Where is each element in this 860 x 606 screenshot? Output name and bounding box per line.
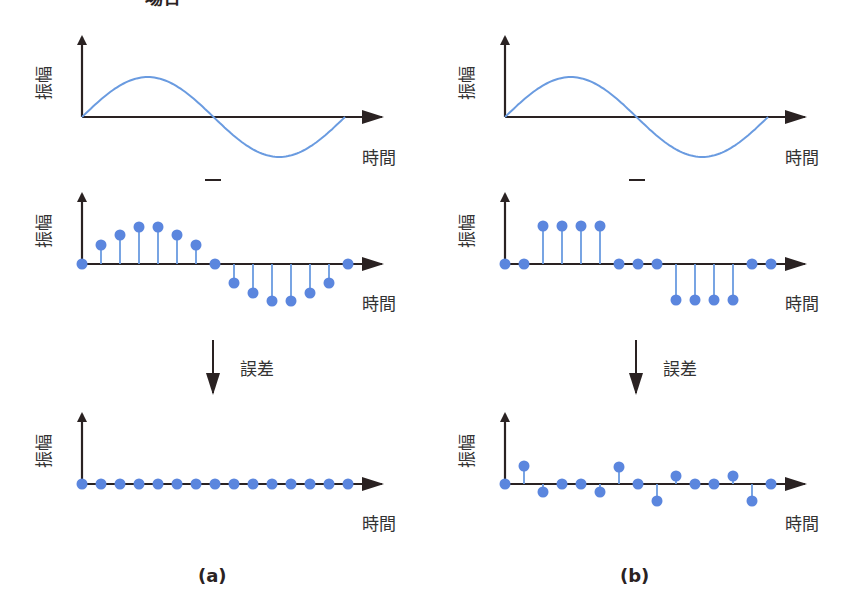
error-dot [557, 479, 568, 490]
error-dot [229, 479, 240, 490]
sample-dot [324, 278, 335, 289]
sample-dot [96, 240, 107, 251]
error-dot [500, 479, 511, 490]
error-dot [728, 471, 739, 482]
error-dot [633, 479, 644, 490]
sample-dot [115, 230, 126, 241]
error-dot [709, 479, 720, 490]
sample-dot [766, 259, 777, 270]
x-axis-label: 時間 [362, 294, 396, 314]
error-dot [747, 496, 758, 507]
error-dot [766, 479, 777, 490]
sample-dot [671, 295, 682, 306]
sample-dot [557, 221, 568, 232]
panel-caption-b: (b) [620, 565, 649, 586]
original-signal-plot: 振幅 [34, 37, 382, 180]
error-dot [153, 479, 164, 490]
sample-dot [134, 222, 145, 233]
sample-dot [538, 221, 549, 232]
sample-dot [633, 259, 644, 270]
error-dot [305, 479, 316, 490]
sample-dot [747, 259, 758, 270]
error-dot [267, 479, 278, 490]
error-label: 誤差 [240, 359, 274, 379]
error-dot [595, 487, 606, 498]
sample-dot [210, 259, 221, 270]
sample-dot [576, 221, 587, 232]
panel-a: 振幅振幅振幅 [34, 37, 382, 490]
x-axis-label: 時間 [362, 148, 396, 168]
error-dot [248, 479, 259, 490]
sample-dot [690, 295, 701, 306]
sample-dot [153, 222, 164, 233]
error-dot [134, 479, 145, 490]
error-dot [77, 479, 88, 490]
error-dot [652, 496, 663, 507]
panel-caption-a: (a) [198, 565, 227, 586]
error-dot [210, 479, 221, 490]
sample-dot [343, 259, 354, 270]
error-dot [286, 479, 297, 490]
sample-dot [305, 288, 316, 299]
panel-b: 振幅振幅振幅 [457, 37, 805, 507]
error-dot [671, 471, 682, 482]
y-axis-label: 振幅 [34, 66, 54, 100]
error-dot [538, 487, 549, 498]
sample-dot [500, 259, 511, 270]
error-dot [343, 479, 354, 490]
sample-dot [229, 278, 240, 289]
y-axis-label: 振幅 [34, 214, 54, 248]
error-label: 誤差 [663, 359, 697, 379]
diagram-canvas: 場合 振幅振幅振幅時間時間誤差時間(a)振幅振幅振幅時間時間誤差時間(b) [0, 0, 860, 606]
error-dot [324, 479, 335, 490]
x-axis-label: 時間 [785, 514, 819, 534]
error-dot [115, 479, 126, 490]
sample-dot [652, 259, 663, 270]
sample-dot [191, 240, 202, 251]
sample-dot [248, 288, 259, 299]
sample-dot [614, 259, 625, 270]
sample-dot [172, 230, 183, 241]
y-axis-label: 振幅 [457, 434, 477, 468]
error-signal-plot: 振幅 [34, 414, 382, 490]
sample-dot [519, 259, 530, 270]
y-axis-label: 振幅 [457, 66, 477, 100]
sample-dot [77, 259, 88, 270]
partial-title: 場合 [145, 0, 182, 8]
sample-dot [595, 221, 606, 232]
sampled-signal-plot: 振幅 [34, 194, 382, 307]
error-signal-plot: 振幅 [457, 414, 805, 507]
sample-dot [267, 296, 278, 307]
error-dot [576, 479, 587, 490]
error-dot [614, 462, 625, 473]
original-signal-plot: 振幅 [457, 37, 805, 180]
sample-dot [709, 295, 720, 306]
error-dot [690, 479, 701, 490]
y-axis-label: 振幅 [34, 434, 54, 468]
error-dot [519, 461, 530, 472]
y-axis-label: 振幅 [457, 214, 477, 248]
sample-dot [728, 295, 739, 306]
x-axis-label: 時間 [785, 148, 819, 168]
x-axis-label: 時間 [362, 514, 396, 534]
error-dot [172, 479, 183, 490]
sampled-signal-plot: 振幅 [457, 194, 805, 306]
error-dot [96, 479, 107, 490]
x-axis-label: 時間 [785, 294, 819, 314]
error-dot [191, 479, 202, 490]
sample-dot [286, 296, 297, 307]
